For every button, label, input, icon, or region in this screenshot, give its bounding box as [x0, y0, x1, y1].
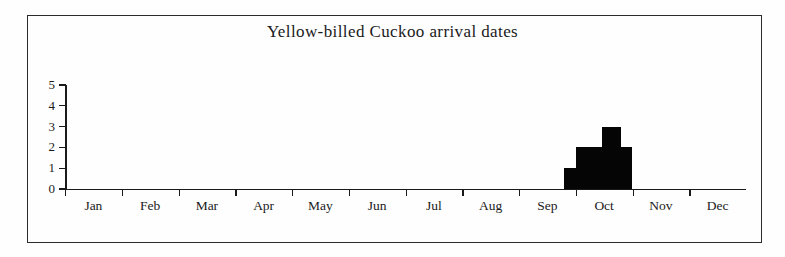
y-axis-tick-label: 2	[33, 140, 55, 153]
x-axis-tick-label: Jul	[406, 199, 462, 213]
y-axis-tick	[59, 168, 66, 169]
x-axis-tick	[179, 189, 180, 196]
x-axis-tick	[633, 189, 634, 196]
y-axis-tick	[59, 84, 66, 85]
x-axis-tick	[65, 189, 66, 196]
y-axis-tick-label: 1	[33, 161, 55, 174]
x-axis-tick	[406, 189, 407, 196]
y-axis-line	[65, 85, 67, 190]
x-axis-tick-label: May	[292, 199, 348, 213]
bar	[602, 127, 620, 189]
y-axis-tick-label: 0	[33, 182, 55, 195]
x-axis-tick	[462, 189, 463, 196]
x-axis-tick-label: Mar	[179, 199, 235, 213]
x-axis-tick	[235, 189, 236, 196]
x-axis-tick-label: Nov	[633, 199, 689, 213]
x-axis-tick-label: Feb	[122, 199, 178, 213]
x-axis-tick	[576, 189, 577, 196]
y-axis-tick	[59, 147, 66, 148]
y-axis-tick-label: 4	[33, 99, 55, 112]
x-axis-tick-label: Apr	[236, 199, 292, 213]
bar	[564, 168, 576, 189]
x-axis-tick	[519, 189, 520, 196]
y-axis-tick-label: 3	[33, 120, 55, 133]
y-axis-tick	[59, 126, 66, 127]
bar	[621, 147, 633, 189]
bar	[576, 147, 603, 189]
x-axis-tick	[292, 189, 293, 196]
x-axis-tick-label: Oct	[576, 199, 632, 213]
y-axis-tick-label: 5	[33, 78, 55, 91]
x-axis-tick-label: Jan	[65, 199, 121, 213]
chart-screenshot: Yellow-billed Cuckoo arrival dates 01234…	[0, 0, 785, 257]
x-axis-tick	[349, 189, 350, 196]
x-axis-tick-label: Dec	[690, 199, 746, 213]
plot-area: 012345 JanFebMarAprMayJunJulAugSepOctNov…	[0, 0, 785, 257]
x-axis-tick-label: Aug	[463, 199, 519, 213]
x-axis-tick	[689, 189, 690, 196]
x-axis-tick-label: Jun	[349, 199, 405, 213]
x-axis-tick	[122, 189, 123, 196]
x-axis-tick-label: Sep	[519, 199, 575, 213]
y-axis-tick	[59, 105, 66, 106]
